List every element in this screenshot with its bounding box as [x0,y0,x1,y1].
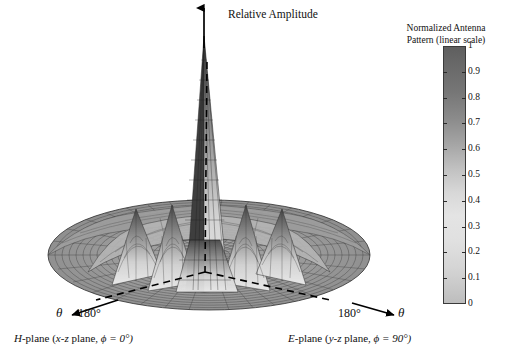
colorbar-tick-0.6: 0.6 [468,144,480,154]
colorbar-tickmark [462,278,466,279]
colorbar-tickmark [462,201,466,202]
left-angle-label: 180° [78,306,101,321]
colorbar-tickmark [462,72,466,73]
colorbar-tick-0.5: 0.5 [468,170,480,180]
colorbar-tickmarks [443,46,466,304]
left-theta-symbol: θ [56,305,62,321]
colorbar-tickmark [462,252,466,253]
colorbar-tickmark [443,201,447,202]
right-theta-symbol: θ [398,305,404,321]
colorbar-title-line2: Pattern (linear scale) [386,34,506,46]
colorbar-tickmark [462,149,466,150]
h-plane-name: H [14,332,22,344]
colorbar-tick-0.2: 0.2 [468,248,480,258]
h-plane-caption: H-plane (x-z plane, ϕ = 0°) [14,332,133,344]
e-plane-phi: ϕ = 90°) [374,332,412,344]
radiation-pattern-plot [0,0,507,357]
h-plane-coord: x-z [56,332,69,344]
colorbar-tickmark [443,72,447,73]
colorbar-tickmark [443,278,447,279]
h-plane-phi: ϕ = 0°) [101,332,133,344]
right-angle-label: 180° [338,306,361,321]
colorbar-tickmark [443,175,447,176]
colorbar-tick-0.8: 0.8 [468,93,480,103]
e-plane-mid: plane, [341,332,373,344]
relative-amplitude-label: Relative Amplitude [228,8,318,20]
antenna-pattern-figure: Relative Amplitude Normalized Antenna Pa… [0,0,507,357]
colorbar-tick-0.1: 0.1 [468,273,480,283]
e-plane-rest: -plane ( [295,332,329,344]
colorbar-tick-0.4: 0.4 [468,196,480,206]
colorbar-title-line1: Normalized Antenna [386,22,506,34]
colorbar-tick-0.9: 0.9 [468,67,480,77]
colorbar-tick-0: 0 [468,299,473,309]
e-plane-coord: y-z [329,332,342,344]
colorbar-tickmark [443,123,447,124]
colorbar-tickmark [462,175,466,176]
colorbar-tickmark [462,98,466,99]
colorbar-tickmark [443,98,447,99]
colorbar-title: Normalized Antenna Pattern (linear scale… [386,22,506,46]
colorbar-tickmark [443,252,447,253]
colorbar-tickmark [462,227,466,228]
h-plane-rest: -plane ( [22,332,56,344]
colorbar-tick-1: 1 [468,41,473,51]
colorbar-tickmark [443,227,447,228]
colorbar-tick-labels: 10.90.80.70.60.50.40.30.20.10 [468,46,498,304]
colorbar-tick-0.7: 0.7 [468,119,480,129]
colorbar-tick-0.3: 0.3 [468,222,480,232]
colorbar-tickmark [462,123,466,124]
h-plane-mid: plane, [69,332,101,344]
e-plane-name: E [288,332,295,344]
e-plane-caption: E-plane (y-z plane, ϕ = 90°) [288,332,411,344]
colorbar-tickmark [443,149,447,150]
